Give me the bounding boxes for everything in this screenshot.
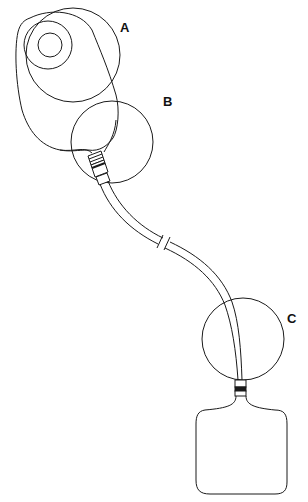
drainage-bag: [196, 396, 287, 494]
stoma-inner-ring: [38, 33, 62, 57]
bag-connector: [235, 380, 246, 396]
diagram-canvas: [0, 0, 308, 502]
detail-circle-b: [71, 101, 153, 183]
detail-circle-c: [202, 298, 284, 380]
tube-break-mark: [157, 235, 170, 250]
drainage-tube-lower: [165, 242, 242, 380]
label-b: B: [163, 94, 172, 109]
pouch-outlet: [60, 120, 116, 153]
tube-connector: [88, 151, 110, 185]
drainage-tube-upper: [100, 181, 163, 244]
label-c: C: [287, 311, 296, 326]
stoma-flange-ring: [24, 21, 72, 69]
label-a: A: [120, 20, 129, 35]
detail-circle-a: [26, 8, 120, 102]
